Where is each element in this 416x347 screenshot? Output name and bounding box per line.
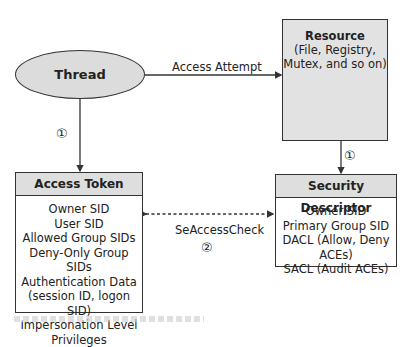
access-token-title: Access Token bbox=[16, 173, 142, 196]
security-descriptor-title: Security Descriptor bbox=[276, 175, 396, 198]
access-attempt-label: Access Attempt bbox=[172, 60, 262, 74]
sd-item: SACL (Audit ACEs) bbox=[276, 262, 396, 277]
thread-node: Thread bbox=[15, 50, 145, 99]
resource-subtitle-1: (File, Registry, bbox=[283, 43, 387, 57]
token-item: Owner SID bbox=[16, 202, 142, 217]
token-item: Authentication Data bbox=[16, 275, 142, 290]
sd-item: Owner SID bbox=[276, 204, 396, 219]
token-item: User SID bbox=[16, 217, 142, 232]
seaccesscheck-label: SeAccessCheck bbox=[175, 223, 264, 237]
faint-caption bbox=[14, 316, 204, 322]
token-item: Allowed Group SIDs bbox=[16, 231, 142, 246]
resource-subtitle-2: Mutex, and so on) bbox=[283, 57, 387, 71]
step-1-badge: ① bbox=[56, 126, 68, 141]
resource-title: Resource bbox=[283, 29, 387, 43]
thread-label: Thread bbox=[54, 67, 105, 82]
token-item: (session ID, logon SID) bbox=[16, 289, 142, 318]
step-1-badge-resource: ① bbox=[344, 148, 356, 163]
access-token-box: Access Token Owner SID User SID Allowed … bbox=[15, 172, 143, 313]
sd-item: Primary Group SID bbox=[276, 219, 396, 234]
token-item: Privileges bbox=[16, 333, 142, 347]
sd-item: DACL (Allow, Deny ACEs) bbox=[276, 233, 396, 262]
token-item: Deny-Only Group SIDs bbox=[16, 246, 142, 275]
security-descriptor-box: Security Descriptor Owner SID Primary Gr… bbox=[275, 174, 397, 267]
step-2-badge: ② bbox=[201, 240, 213, 255]
resource-node: Resource (File, Registry, Mutex, and so … bbox=[282, 19, 388, 141]
